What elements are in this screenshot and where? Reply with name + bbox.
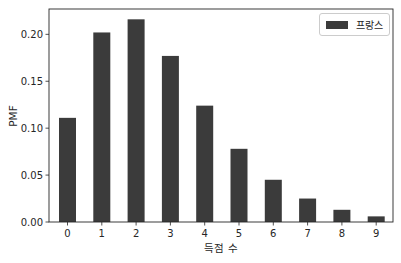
- y-tick-label: 0.15: [21, 76, 43, 87]
- bar: [368, 216, 385, 222]
- x-tick-label: 1: [99, 228, 105, 239]
- bar: [333, 210, 350, 222]
- x-tick-label: 4: [202, 228, 208, 239]
- y-tick-label: 0.20: [21, 29, 43, 40]
- y-tick-label: 0.10: [21, 123, 43, 134]
- x-tick-label: 6: [270, 228, 276, 239]
- x-tick-label: 3: [167, 228, 173, 239]
- legend: 프랑스: [319, 13, 390, 36]
- bar: [265, 180, 282, 222]
- x-tick-label: 7: [304, 228, 310, 239]
- legend-swatch: [326, 21, 348, 29]
- y-tick-label: 0.05: [21, 170, 43, 181]
- x-axis-label: 득점 수: [204, 242, 237, 254]
- y-axis-ticks: 0.000.050.100.150.20: [21, 29, 49, 228]
- bar: [93, 32, 110, 222]
- y-tick-label: 0.00: [21, 217, 43, 228]
- x-tick-label: 5: [236, 228, 242, 239]
- bar: [59, 118, 76, 222]
- bar: [231, 149, 248, 222]
- bar: [299, 199, 316, 222]
- legend-label: 프랑스: [356, 17, 383, 32]
- bar: [128, 19, 145, 222]
- y-axis-label: PMF: [7, 105, 19, 126]
- x-tick-label: 0: [64, 228, 70, 239]
- bar: [196, 106, 213, 222]
- x-tick-label: 2: [133, 228, 139, 239]
- x-tick-label: 9: [373, 228, 379, 239]
- x-axis-ticks: 0123456789: [64, 222, 379, 239]
- x-tick-label: 8: [339, 228, 345, 239]
- bar-chart: 0.000.050.100.150.20 0123456789 득점 수 PMF: [0, 0, 401, 263]
- bar: [162, 56, 179, 222]
- bar-series: [59, 19, 385, 222]
